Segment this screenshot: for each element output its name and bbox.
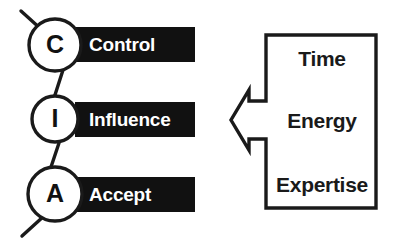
row-control[interactable]: Control C (29, 19, 195, 71)
cost-item-energy: Energy (287, 109, 357, 132)
cost-box[interactable]: Time Energy Expertise (231, 35, 376, 208)
influence-node-letter: I (52, 104, 59, 132)
diagram-canvas: Control C Influence I Accept A Time Ener… (0, 0, 395, 239)
row-accept[interactable]: Accept A (28, 167, 195, 221)
influence-bar-label: Influence (89, 109, 171, 130)
cia-diagram: Control C Influence I Accept A Time Ener… (0, 0, 395, 239)
control-bar-label: Control (89, 34, 155, 55)
control-node-letter: C (46, 30, 64, 58)
row-influence[interactable]: Influence I (32, 96, 195, 142)
accept-node-letter: A (46, 179, 64, 207)
connector-line-control-influence (54, 70, 63, 98)
connector-line-bottom (22, 216, 44, 236)
accept-bar-label: Accept (89, 184, 152, 205)
cost-item-time: Time (298, 47, 345, 70)
cost-item-expertise: Expertise (276, 173, 368, 196)
